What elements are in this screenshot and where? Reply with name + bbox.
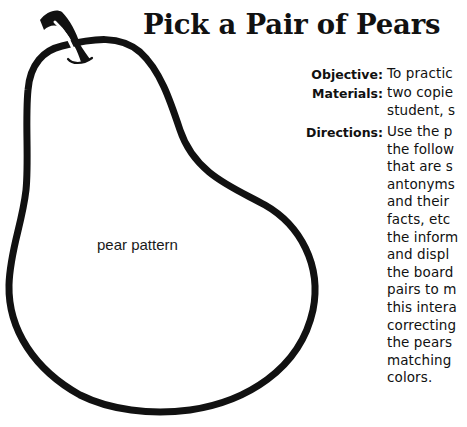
objective-line: To practic xyxy=(387,65,453,83)
directions-line: and their xyxy=(387,193,449,211)
directions-line: matching xyxy=(387,352,451,370)
directions-line: that are s xyxy=(387,158,453,176)
directions-line: facts, etc xyxy=(387,211,450,229)
directions-line: Use the p xyxy=(387,123,452,141)
materials-line: two copie xyxy=(387,84,453,102)
directions-line: colors. xyxy=(387,369,432,387)
directions-line: and displ xyxy=(387,246,449,264)
materials-term: Materials: xyxy=(263,85,383,103)
directions-line: this intera xyxy=(387,299,457,317)
directions-line: pairs to m xyxy=(387,281,456,299)
directions-line: the board xyxy=(387,264,453,282)
directions-line: the inform xyxy=(387,229,458,247)
directions-line: antonyms xyxy=(387,176,455,194)
page-title: Pick a Pair of Pears xyxy=(143,10,440,39)
directions-line: correcting xyxy=(387,317,456,335)
objective-term: Objective: xyxy=(263,66,383,84)
directions-line: the follow xyxy=(387,141,454,159)
directions-term: Directions: xyxy=(263,124,383,142)
directions-line: the pears xyxy=(387,334,452,352)
pear-pattern-label: pear pattern xyxy=(97,236,178,253)
materials-line: student, s xyxy=(387,102,455,120)
